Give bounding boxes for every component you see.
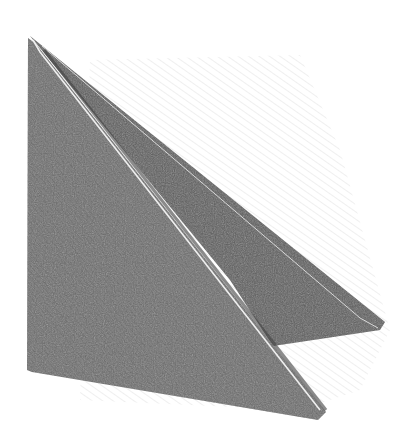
drawing-canvas: Pencil sketch of a folded paper triangle <box>0 0 415 446</box>
folded-triangle-sketch <box>0 0 415 446</box>
